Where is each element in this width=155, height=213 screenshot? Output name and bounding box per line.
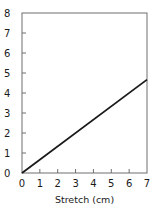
data-line — [22, 80, 147, 173]
x-axis: 01234567 — [19, 169, 150, 189]
y-tick-label: 0 — [4, 168, 10, 179]
y-tick-label: 5 — [4, 68, 10, 79]
y-axis: 012345678 — [4, 8, 26, 179]
x-tick-label: 5 — [108, 178, 114, 189]
x-tick-label: 4 — [90, 178, 96, 189]
x-tick-label: 7 — [144, 178, 150, 189]
y-tick-label: 1 — [4, 148, 10, 159]
x-tick-label: 6 — [126, 178, 132, 189]
x-tick-label: 3 — [72, 178, 78, 189]
x-axis-label: Stretch (cm) — [55, 194, 114, 205]
x-tick-label: 0 — [19, 178, 25, 189]
y-tick-label: 7 — [4, 28, 10, 39]
y-tick-label: 2 — [4, 128, 10, 139]
y-tick-label: 4 — [4, 88, 10, 99]
y-tick-label: 6 — [4, 48, 10, 59]
y-tick-label: 3 — [4, 108, 10, 119]
x-tick-label: 1 — [37, 178, 43, 189]
data-series — [22, 80, 147, 173]
x-tick-label: 2 — [55, 178, 61, 189]
y-tick-label: 8 — [4, 8, 10, 19]
line-chart: 012345678 01234567 Stretch (cm) — [0, 0, 155, 213]
